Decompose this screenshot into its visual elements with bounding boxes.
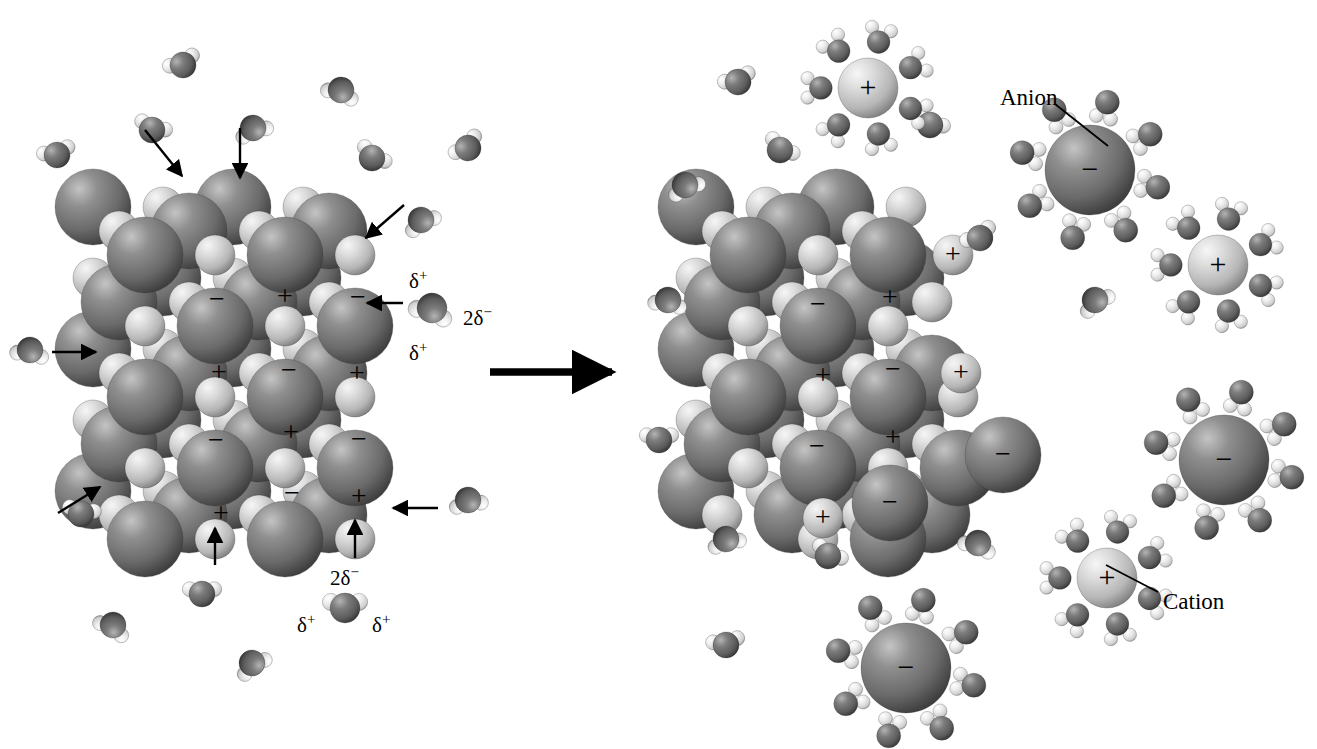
oxygen-atom [1177, 290, 1200, 313]
water-molecule [704, 629, 747, 661]
water-molecule [1166, 290, 1200, 324]
water-molecule [1195, 504, 1225, 540]
oxygen-atom [809, 77, 832, 100]
water-molecule [230, 109, 276, 147]
oxygen-atom [858, 596, 882, 620]
water-molecule [1144, 431, 1180, 461]
water-molecule [950, 667, 986, 697]
water-molecule [1152, 474, 1188, 507]
oxygen-atom [1048, 567, 1071, 590]
cation-sphere [728, 448, 768, 488]
ion-charge-sign: + [882, 281, 898, 312]
ion-charge-sign: + [213, 497, 229, 528]
oxygen-atom [827, 113, 850, 136]
ion-charge-sign: − [208, 424, 224, 455]
oxygen-atom [330, 593, 360, 623]
ion-charge-sign: − [351, 423, 367, 454]
oxygen-atom [1138, 546, 1161, 569]
water-molecule [1061, 214, 1091, 250]
water-molecule [182, 581, 221, 607]
ion-charge-sign: − [995, 438, 1011, 469]
oxygen-atom [930, 716, 954, 740]
hydrogen-atom [1126, 129, 1140, 143]
ion-charge-sign: + [351, 480, 367, 511]
ion-charge-sign: − [898, 650, 915, 683]
oxygen-atom [1217, 300, 1240, 323]
water-molecule [129, 111, 175, 149]
water-molecule [1215, 300, 1247, 333]
water-molecule [801, 72, 832, 105]
cation-sphere [125, 448, 165, 488]
hydrogen-atom [1117, 206, 1131, 220]
delta-plus-top: δ+ [409, 268, 427, 292]
oxygen-atom [1159, 254, 1182, 277]
delta-2minus-top: 2δ− [330, 565, 359, 589]
hydrogen-atom [1251, 496, 1265, 510]
water-molecule [397, 199, 444, 241]
water-molecule [1223, 380, 1253, 416]
delta-plus-right: δ+ [372, 612, 390, 636]
hydrogen-atom [933, 704, 947, 718]
ion-charge-sign: + [885, 421, 901, 452]
water-molecule [1055, 603, 1089, 637]
oxygen-atom [867, 31, 890, 54]
water-molecule [89, 604, 136, 646]
oxygen-atom [1146, 175, 1170, 199]
water-molecule [826, 639, 862, 669]
ion-charge-sign: + [815, 501, 831, 532]
oxygen-atom [1248, 508, 1272, 532]
oxygen-atom [1176, 388, 1200, 412]
oxygen-atom [1138, 587, 1161, 610]
oxygen-atom [867, 123, 890, 146]
ion-charge-sign: + [815, 359, 831, 390]
hydrogen-atom [1040, 197, 1054, 211]
ion-charge-sign: − [350, 281, 366, 312]
oxygen-atom [834, 692, 858, 716]
water-molecule [1104, 510, 1136, 543]
anion-sphere [107, 217, 183, 293]
water-molecule [816, 113, 850, 147]
water-molecule [1018, 184, 1054, 217]
water-molecule [756, 128, 803, 172]
ion-charge-sign: − [1216, 442, 1233, 475]
water-molecule [1215, 197, 1247, 230]
oxygen-atom [1138, 122, 1162, 146]
oxygen-atom [1144, 431, 1168, 455]
oxygen-atom [962, 673, 986, 697]
water-molecule [445, 125, 492, 170]
oxygen-atom [1114, 218, 1138, 242]
oxygen-atom [1018, 194, 1042, 218]
hydrogen-atom [1174, 487, 1188, 501]
oxygen-atom [1177, 217, 1200, 240]
ion-charge-sign: + [945, 238, 961, 269]
delta-plus-left: δ+ [297, 612, 315, 636]
oxygen-atom [1061, 226, 1085, 250]
cation-sphere [125, 306, 165, 346]
oxygen-atom [899, 97, 922, 120]
water-molecule [1040, 562, 1071, 595]
water-molecule [920, 704, 953, 740]
hydrogen-atom [831, 28, 844, 41]
ion-charge-sign: − [209, 283, 225, 314]
water-molecule [639, 427, 678, 453]
hydrogen-atom [1260, 419, 1274, 433]
water-molecule [1151, 249, 1182, 282]
water-molecule [865, 123, 897, 156]
water-molecule [877, 712, 907, 748]
oxygen-atom [826, 639, 850, 663]
water-molecule [8, 334, 51, 366]
water-molecule [35, 137, 80, 172]
oxygen-atom [1195, 516, 1219, 540]
water-molecule [834, 682, 870, 715]
cation-sphere [265, 306, 305, 346]
ion-charge-sign: − [284, 477, 300, 508]
ion-charge-sign: − [1082, 152, 1099, 185]
water-molecule [816, 28, 850, 62]
water-molecule [1249, 274, 1283, 307]
oxygen-atom [1106, 521, 1129, 544]
hydrogen-atom [856, 695, 870, 709]
hydrogen-atom [1181, 205, 1194, 218]
hydrogen-atom [1181, 312, 1194, 325]
oxygen-atom [646, 427, 672, 453]
cation-sphere [195, 235, 235, 275]
